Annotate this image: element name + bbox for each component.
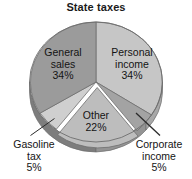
slice-label-personal-income-line1: Personal — [100, 47, 164, 59]
slice-label-personal-income: Personal income 34% — [100, 47, 164, 82]
slice-label-gasoline-tax: Gasoline tax 5% — [2, 139, 66, 174]
slice-label-general-sales-line1: General — [32, 47, 94, 59]
slice-label-general-sales: General sales 34% — [32, 47, 94, 82]
slice-value-general-sales: 34% — [32, 70, 94, 82]
pie-chart: State taxes General — [0, 0, 192, 179]
slice-value-corporate-income: 5% — [126, 162, 192, 174]
slice-label-other: Other 22% — [68, 110, 124, 133]
slice-value-personal-income: 34% — [100, 70, 164, 82]
slice-value-other: 22% — [68, 122, 124, 134]
slice-label-corporate-income: Corporate income 5% — [126, 139, 192, 174]
slice-label-other-line1: Other — [68, 110, 124, 122]
slice-value-gasoline-tax: 5% — [2, 162, 66, 174]
slice-label-corporate-income-line1: Corporate — [126, 139, 192, 151]
slice-label-gasoline-tax-line1: Gasoline — [2, 139, 66, 151]
